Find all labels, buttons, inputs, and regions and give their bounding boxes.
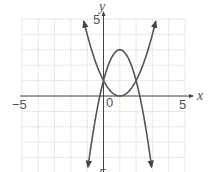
y-min-tick-label: −5 xyxy=(92,166,107,172)
y-max-tick-label: 5 xyxy=(93,12,100,27)
x-max-tick-label: 5 xyxy=(179,97,186,112)
x-axis-label: x xyxy=(196,88,204,103)
parabola-graph: y x 5 −5 5 0 −5 xyxy=(0,0,215,172)
x-min-tick-label: −5 xyxy=(12,97,27,112)
origin-label: 0 xyxy=(106,95,113,110)
axes xyxy=(20,12,193,172)
